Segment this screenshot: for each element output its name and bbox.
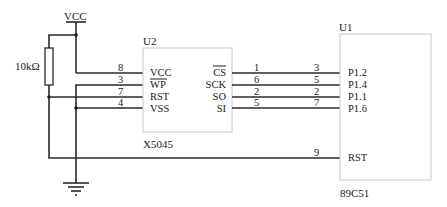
- u1-pin-p1-4: P1.4: [348, 79, 368, 90]
- resistor-label: 10kΩ: [15, 60, 40, 72]
- u2-pin-number: 2: [254, 86, 259, 97]
- schematic: VCC 10kΩ 8 3 7 4 U2 VCC WP RST VSS CS SC…: [0, 0, 447, 207]
- vss-junction: [74, 106, 78, 110]
- u1-pin-number: 5: [314, 74, 319, 85]
- u2-pin-number: 6: [254, 74, 259, 85]
- u1-reference: U1: [339, 21, 352, 33]
- u1-part-number: 89C51: [340, 187, 369, 199]
- u2-wp-ground-wire: [76, 85, 143, 183]
- u2-pin-number: 1: [254, 62, 259, 73]
- u1-pin-p1-1: P1.1: [348, 91, 367, 102]
- ground-icon: [63, 183, 89, 195]
- u2-pin-number: 7: [118, 86, 123, 97]
- u2-pin-so: SO: [213, 91, 227, 102]
- resistor-icon: [45, 48, 53, 85]
- u2-pin-number: 4: [118, 97, 124, 108]
- u2-reference: U2: [143, 35, 156, 47]
- u2-pin-sck: SCK: [206, 79, 227, 90]
- resistor-top-wire: [49, 35, 76, 48]
- vcc-label: VCC: [64, 10, 87, 22]
- u2-part-number: X5045: [143, 138, 173, 150]
- u2-pin-number: 8: [118, 62, 123, 73]
- u1-pin-p1-2: P1.2: [348, 67, 367, 78]
- u1-pin-number: 9: [314, 147, 319, 158]
- u1-pin-rst: RST: [348, 152, 368, 163]
- u1-pin-p1-6: P1.6: [348, 103, 367, 114]
- u2-chip: [143, 48, 232, 132]
- u1-pin-number: 3: [314, 62, 319, 73]
- u1-pin-number: 2: [314, 86, 319, 97]
- u1-pin-number: 7: [314, 97, 319, 108]
- u2-pin-wp: WP: [150, 79, 166, 90]
- u2-pin-number: 5: [254, 97, 259, 108]
- u2-pin-rst: RST: [150, 91, 170, 102]
- u2-pin-vcc: VCC: [150, 67, 172, 78]
- u2-pin-vss: VSS: [150, 103, 169, 114]
- u2-pin-cs: CS: [213, 67, 226, 78]
- u2-pin-si: SI: [217, 103, 227, 114]
- u2-pin-number: 3: [118, 74, 123, 85]
